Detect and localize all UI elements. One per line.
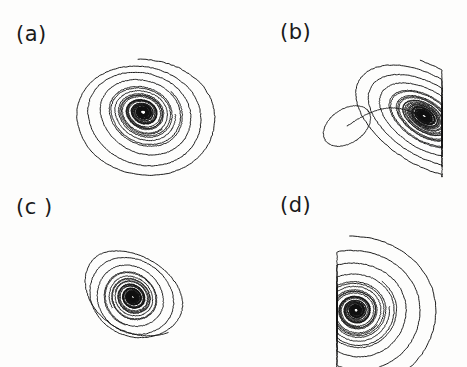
attractor-plot-d	[234, 184, 467, 367]
panel-b: (b)	[234, 0, 467, 183]
panel-d: (d)	[234, 184, 467, 367]
panel-c: (c )	[0, 184, 233, 367]
panel-label-c: (c )	[16, 197, 53, 218]
figure-container: (a) (b) (c ) (d)	[0, 0, 467, 367]
panel-label-d: (d)	[280, 195, 311, 216]
panel-label-b: (b)	[280, 22, 311, 43]
panel-a: (a)	[0, 0, 233, 183]
panel-label-a: (a)	[16, 24, 47, 45]
attractor-plot-b	[234, 0, 467, 183]
